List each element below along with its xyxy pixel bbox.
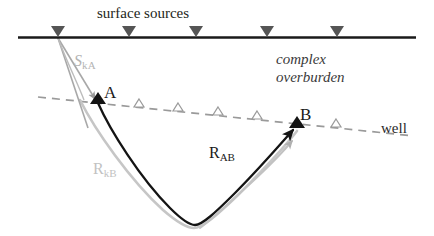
source-marker[interactable] [330,26,344,37]
receiver-group [90,92,305,128]
source-marker[interactable] [122,26,136,37]
well-marker [173,103,183,111]
ray-ska-label-sub: kA [82,59,96,71]
ray-rkb-label: RkB [93,161,117,179]
ray-ska-label-main: S [74,52,82,69]
point-b-label: B [300,106,311,123]
source-marker-group [51,26,344,37]
overburden-label: overburden [276,70,345,85]
ray-rab-label: RAB [209,145,235,163]
point-a-label: A [104,84,116,101]
well-marker [331,119,341,127]
well-marker [213,107,223,115]
surface-group [18,26,416,38]
complex-label: complex [276,52,326,67]
source-marker[interactable] [51,26,65,37]
ray-rab-path [98,103,293,225]
ray-rab-label-sub: AB [220,151,235,163]
ray-rkb-label-main: R [93,160,104,177]
ray-rab-label-main: R [209,144,220,161]
ray-rab-group [98,103,293,228]
ray-rkb-label-sub: kB [104,167,117,179]
seismic-raypath-figure: surface sources complex overburden SkA A… [0,0,434,236]
ray-ska-label: SkA [74,53,96,71]
surface-sources-label: surface sources [97,6,189,21]
well-marker [252,111,262,119]
source-marker[interactable] [189,26,203,37]
ray-ska-secondary-path [58,38,88,128]
well-label: well [381,121,407,136]
figure-canvas [0,0,434,236]
source-marker[interactable] [260,26,274,37]
well-marker [134,99,144,107]
